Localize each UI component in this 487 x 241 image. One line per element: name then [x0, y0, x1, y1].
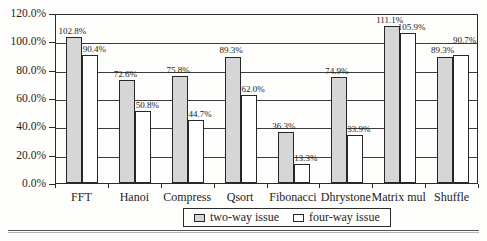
- value-label-two-way-issue-Hanoi: 72.6%: [105, 69, 145, 79]
- x-axis-tick-mark: [319, 184, 320, 188]
- plot-area: [55, 14, 478, 184]
- x-axis-tick-mark: [108, 184, 109, 188]
- value-label-two-way-issue-Fibonacci: 36.3%: [264, 121, 304, 131]
- y-axis-tick-mark: [49, 99, 55, 100]
- y-axis-tick-label: 20.0%: [2, 149, 46, 161]
- y-axis-tick-label: 0.0%: [2, 177, 46, 189]
- bar-four-way-issue-FFT: [82, 55, 98, 183]
- legend-swatch-two-way-issue: [194, 214, 205, 222]
- x-axis-tick-mark: [478, 184, 479, 188]
- bar-two-way-issue-Hanoi: [119, 80, 135, 183]
- y-axis-tick-mark: [49, 71, 55, 72]
- value-label-four-way-issue-Fibonacci: 13.3%: [286, 153, 326, 163]
- bar-four-way-issue-Compress: [188, 120, 204, 183]
- y-axis-tick-mark: [49, 127, 55, 128]
- value-label-four-way-issue-Hanoi: 50.8%: [127, 100, 167, 110]
- value-label-four-way-issue-Shuffle: 90.7%: [445, 35, 485, 45]
- legend-label-two-way-issue: two-way issue: [210, 210, 279, 225]
- bar-two-way-issue-Compress: [172, 76, 188, 183]
- value-label-four-way-issue-Matrix-mul: 105.9%: [392, 22, 432, 32]
- legend-item-four-way-issue: four-way issue: [293, 210, 380, 225]
- value-label-four-way-issue-Qsort: 62.0%: [233, 84, 273, 94]
- x-axis-tick-mark: [214, 184, 215, 188]
- value-label-two-way-issue-Shuffle: 89.3%: [423, 45, 463, 55]
- bar-four-way-issue-Dhrystone: [347, 135, 363, 183]
- x-axis-tick-mark: [425, 184, 426, 188]
- legend-item-two-way-issue: two-way issue: [194, 210, 279, 225]
- value-label-two-way-issue-Compress: 75.8%: [158, 65, 198, 75]
- value-label-two-way-issue-Dhrystone: 74.9%: [317, 66, 357, 76]
- bar-two-way-issue-Shuffle: [437, 57, 453, 184]
- benchmark-issue-width-bar-chart-figure: 0.0%20.0%40.0%60.0%80.0%100.0%120.0%FFTH…: [0, 0, 487, 241]
- y-axis-tick-label: 120.0%: [2, 7, 46, 19]
- y-axis-tick-label: 100.0%: [2, 35, 46, 47]
- y-axis-tick-label: 40.0%: [2, 120, 46, 132]
- y-axis-tick-mark: [49, 14, 55, 15]
- x-axis-tick-mark: [372, 184, 373, 188]
- bar-four-way-issue-Qsort: [241, 95, 257, 183]
- legend-box: two-way issuefour-way issue: [183, 208, 391, 227]
- value-label-two-way-issue-FFT: 102.8%: [52, 26, 92, 36]
- y-axis-tick-mark: [49, 42, 55, 43]
- y-axis-tick-mark: [49, 156, 55, 157]
- bar-four-way-issue-Fibonacci: [294, 164, 310, 183]
- y-axis-tick-label: 60.0%: [2, 92, 46, 104]
- bottom-rule: [8, 230, 479, 233]
- x-axis-tick-mark: [161, 184, 162, 188]
- bar-two-way-issue-Qsort: [225, 57, 241, 184]
- legend-label-four-way-issue: four-way issue: [309, 210, 380, 225]
- x-axis-tick-mark: [55, 184, 56, 188]
- value-label-four-way-issue-FFT: 90.4%: [74, 44, 114, 54]
- value-label-four-way-issue-Dhrystone: 33.9%: [339, 124, 379, 134]
- legend-swatch-four-way-issue: [293, 214, 304, 222]
- bar-four-way-issue-Shuffle: [453, 55, 469, 183]
- bar-two-way-issue-FFT: [66, 37, 82, 183]
- x-axis-tick-mark: [267, 184, 268, 188]
- y-axis-tick-label: 80.0%: [2, 64, 46, 76]
- category-label-Shuffle: Shuffle: [417, 190, 487, 205]
- value-label-four-way-issue-Compress: 44.7%: [180, 109, 220, 119]
- bar-four-way-issue-Matrix-mul: [400, 33, 416, 183]
- value-label-two-way-issue-Qsort: 89.3%: [211, 45, 251, 55]
- bar-four-way-issue-Hanoi: [135, 111, 151, 183]
- bar-two-way-issue-Matrix-mul: [384, 26, 400, 183]
